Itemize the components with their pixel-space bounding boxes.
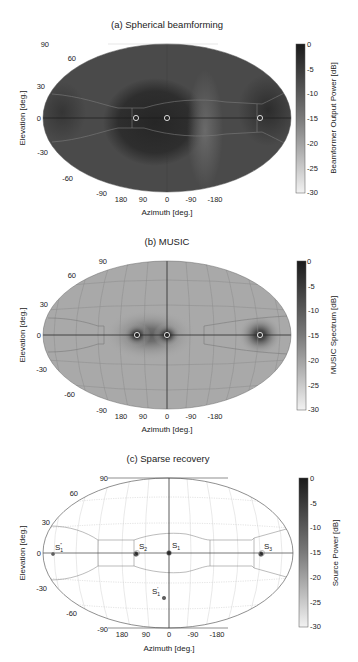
elev-tick: 0 xyxy=(37,114,41,123)
colorbar-tick: -10 xyxy=(308,306,319,315)
panel-a-map xyxy=(38,44,298,192)
panel-a-spherical-beamforming: (a) Spherical beamforming xyxy=(18,19,338,217)
panel-a-ylabel: Elevation [deg.] xyxy=(18,90,27,145)
elev-tick: -60 xyxy=(66,609,77,618)
panel-b-music: (b) MUSIC xyxy=(18,236,338,434)
azim-tick: 90 xyxy=(139,412,147,421)
figure: (a) Spherical beamforming xyxy=(0,0,358,662)
panel-c-colorbar-label: Source Power [dB] xyxy=(331,520,340,587)
elev-tick: 0 xyxy=(37,549,41,558)
colorbar-tick: -30 xyxy=(308,405,319,414)
colorbar-tick: -15 xyxy=(308,331,319,340)
azim-tick: -90 xyxy=(186,412,197,421)
colorbar-tick: -30 xyxy=(307,188,318,197)
panel-c-map: S1'' S2 S1 S1' S3 xyxy=(38,478,298,628)
panel-b-xlabel: Azimuth [deg.] xyxy=(141,425,192,434)
elev-tick: -60 xyxy=(64,390,75,399)
panel-b-colorbar-label: MUSIC Spectrum [dB] xyxy=(329,296,338,375)
elev-tick: -90 xyxy=(96,189,107,198)
azim-tick: 0 xyxy=(165,195,169,204)
panel-c-colorbar: 0 -5 -10 -15 -20 -25 -30 Source Power [d… xyxy=(299,474,340,631)
azim-tick: 180 xyxy=(115,412,128,421)
azim-tick: 0 xyxy=(165,412,169,421)
elev-tick: 60 xyxy=(70,489,78,498)
azim-tick: -180 xyxy=(207,412,222,421)
colorbar-tick: -20 xyxy=(310,573,321,582)
elev-tick: -60 xyxy=(62,174,73,183)
azim-tick: 180 xyxy=(115,195,128,204)
colorbar-tick: -15 xyxy=(310,548,321,557)
panel-b-azimuth-ticks: 180 90 0 -90 -180 xyxy=(115,412,223,421)
colorbar-tick: -5 xyxy=(307,65,314,74)
panel-a-colorbar-label: Beamformer Output Power [dB] xyxy=(329,62,338,174)
panel-a-azimuth-ticks: 180 90 0 -90 -180 xyxy=(115,195,223,204)
colorbar-tick: 0 xyxy=(307,40,311,49)
elev-tick: 60 xyxy=(68,271,76,280)
azim-tick: 180 xyxy=(116,630,129,639)
elev-tick: -90 xyxy=(97,625,108,634)
elev-tick: -30 xyxy=(36,584,47,593)
panel-a-xlabel: Azimuth [deg.] xyxy=(141,208,192,217)
colorbar-tick: -5 xyxy=(310,499,317,508)
elev-tick: 30 xyxy=(42,518,50,527)
colorbar-tick: -5 xyxy=(308,282,315,291)
azim-tick: -90 xyxy=(186,195,197,204)
colorbar-tick: 0 xyxy=(307,257,311,266)
panel-b-ylabel: Elevation [deg.] xyxy=(18,307,27,362)
panel-b-title: (b) MUSIC xyxy=(145,236,190,247)
elev-tick: -30 xyxy=(37,148,48,157)
colorbar-tick: -30 xyxy=(310,622,321,631)
elev-tick: 60 xyxy=(68,54,76,63)
elev-tick: 30 xyxy=(40,300,48,309)
panel-c-xlabel: Azimuth [deg.] xyxy=(143,644,194,653)
colorbar-tick: -25 xyxy=(308,381,319,390)
colorbar-tick: -10 xyxy=(307,89,318,98)
elev-tick: 90 xyxy=(99,257,107,266)
colorbar-tick: -15 xyxy=(307,114,318,123)
panel-b-colorbar: 0 -5 -10 -15 -20 -25 -30 MUSIC Spectrum … xyxy=(297,257,338,414)
panel-a-title: (a) Spherical beamforming xyxy=(111,19,223,30)
elev-tick: -30 xyxy=(36,365,47,374)
panel-c-azimuth-ticks: 180 90 0 -90 -180 xyxy=(116,630,225,639)
azim-tick: -180 xyxy=(209,630,224,639)
elev-tick: 30 xyxy=(37,82,45,91)
elev-tick: -90 xyxy=(96,406,107,415)
elev-tick: 90 xyxy=(41,40,49,49)
colorbar-tick: -20 xyxy=(307,139,318,148)
azim-tick: 90 xyxy=(142,630,150,639)
colorbar-tick: -25 xyxy=(310,598,321,607)
elev-tick: 90 xyxy=(100,474,108,483)
colorbar-tick: -25 xyxy=(307,164,318,173)
colorbar-tick: -10 xyxy=(310,523,321,532)
panel-c-title: (c) Sparse recovery xyxy=(127,453,210,464)
azim-tick: -180 xyxy=(207,195,222,204)
azim-tick: 0 xyxy=(167,630,171,639)
colorbar-tick: 0 xyxy=(310,474,314,483)
azim-tick: -90 xyxy=(188,630,199,639)
panel-c-ylabel: Elevation [deg.] xyxy=(18,525,27,580)
panel-b-map xyxy=(38,261,297,409)
colorbar-tick: -20 xyxy=(308,356,319,365)
panel-a-colorbar: 0 -5 -10 -15 -20 -25 -30 Beamformer Outp… xyxy=(296,40,338,197)
elev-tick: 0 xyxy=(37,331,41,340)
panel-c-sparse-recovery: (c) Sparse recovery xyxy=(18,453,340,653)
azim-tick: 90 xyxy=(139,195,147,204)
